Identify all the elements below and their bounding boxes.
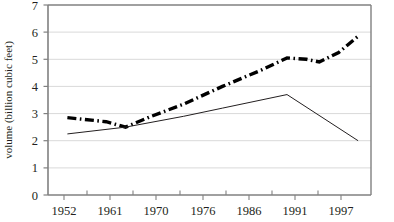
y-axis-title: volume (billion cubic feet) bbox=[2, 41, 15, 159]
x-tick-label: 1976 bbox=[191, 204, 216, 218]
chart-background bbox=[0, 0, 394, 222]
x-tick-label: 1970 bbox=[144, 204, 169, 218]
x-tick-label: 1997 bbox=[329, 204, 354, 218]
chart-figure: 7 6 5 4 3 2 1 0 1952 1961 1970 1976 1986… bbox=[0, 0, 394, 222]
y-tick-label: 2 bbox=[32, 134, 38, 148]
y-tick-label: 1 bbox=[32, 161, 38, 175]
y-tick-label: 5 bbox=[32, 53, 38, 67]
y-tick-label: 3 bbox=[32, 107, 38, 121]
y-tick-label: 7 bbox=[32, 0, 38, 13]
y-tick-label: 0 bbox=[32, 189, 38, 203]
x-tick-label: 1961 bbox=[98, 204, 123, 218]
y-tick-label: 6 bbox=[32, 26, 38, 40]
line-chart: 7 6 5 4 3 2 1 0 1952 1961 1970 1976 1986… bbox=[0, 0, 394, 222]
x-tick-label: 1986 bbox=[237, 204, 262, 218]
x-tick-label: 1991 bbox=[283, 204, 308, 218]
x-tick-label: 1952 bbox=[52, 204, 77, 218]
y-tick-label: 4 bbox=[32, 80, 39, 94]
